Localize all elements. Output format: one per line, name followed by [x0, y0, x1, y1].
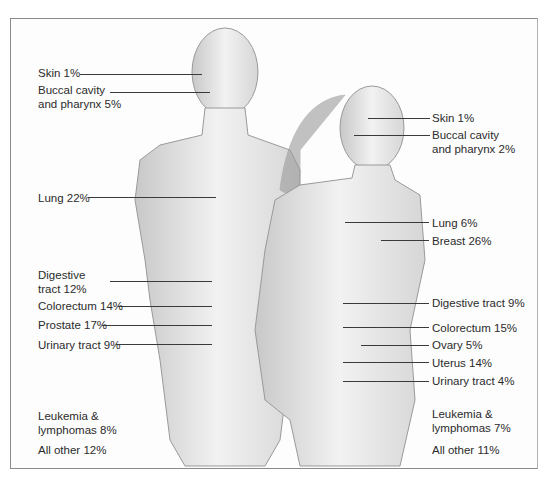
female-label-leukemia: Leukemia & lymphomas 7% [432, 407, 511, 435]
female-label-buccal-line1: Buccal cavity [432, 128, 515, 142]
female-label-leukemia-line1: Leukemia & [432, 407, 511, 421]
male-leader-colorectum [118, 306, 212, 307]
female-label-skin: Skin 1% [432, 111, 474, 125]
female-figure-sketch [255, 86, 425, 466]
female-label-buccal-line2: and pharynx 2% [432, 142, 515, 156]
male-label-leukemia: Leukemia & lymphomas 8% [38, 409, 117, 437]
male-label-leukemia-line1: Leukemia & [38, 409, 117, 423]
female-leader-urinary [343, 381, 429, 382]
male-label-lung: Lung 22% [38, 191, 90, 205]
female-label-other: All other 11% [432, 443, 500, 457]
male-label-urinary: Urinary tract 9% [38, 338, 120, 352]
male-leader-skin [80, 74, 202, 75]
female-label-lung: Lung 6% [432, 216, 477, 230]
male-label-other: All other 12% [38, 443, 106, 457]
female-label-digestive: Digestive tract 9% [432, 296, 525, 310]
female-leader-colorectum [343, 327, 429, 328]
female-leader-uterus [343, 362, 429, 363]
male-label-buccal: Buccal cavity and pharynx 5% [38, 83, 121, 111]
male-label-leukemia-line2: lymphomas 8% [38, 423, 117, 437]
female-label-ovary: Ovary 5% [432, 338, 483, 352]
female-label-uterus: Uterus 14% [432, 356, 492, 370]
female-leader-skin [368, 118, 430, 119]
male-leader-digestive [110, 281, 212, 282]
female-label-leukemia-line2: lymphomas 7% [432, 421, 511, 435]
male-label-prostate: Prostate 17% [38, 318, 107, 332]
male-label-skin: Skin 1% [38, 66, 80, 80]
female-leader-buccal [354, 135, 430, 136]
female-leader-ovary [361, 345, 429, 346]
male-leader-buccal [110, 92, 210, 93]
female-leader-lung [345, 222, 429, 223]
male-label-digestive-line1: Digestive [38, 268, 87, 282]
male-label-digestive-line2: tract 12% [38, 282, 87, 296]
male-label-buccal-line1: Buccal cavity [38, 83, 121, 97]
female-leader-digestive [343, 303, 429, 304]
female-leader-breast [381, 240, 429, 241]
male-leader-lung [88, 197, 216, 198]
female-label-colorectum: Colorectum 15% [432, 321, 517, 335]
male-label-colorectum: Colorectum 14% [38, 299, 123, 313]
female-label-urinary: Urinary tract 4% [432, 374, 514, 388]
male-leader-prostate [102, 325, 212, 326]
female-label-breast: Breast 26% [432, 234, 491, 248]
male-label-digestive: Digestive tract 12% [38, 268, 87, 296]
female-label-buccal: Buccal cavity and pharynx 2% [432, 128, 515, 156]
male-label-buccal-line2: and pharynx 5% [38, 97, 121, 111]
male-leader-urinary [116, 344, 212, 345]
